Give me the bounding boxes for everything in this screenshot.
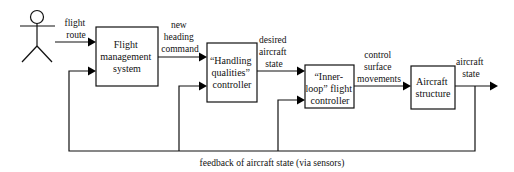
arrowhead-icon	[88, 38, 96, 47]
feedback-line-inner	[278, 100, 299, 151]
aircraft-state-label: aircraft state	[456, 57, 486, 79]
flight-route-label: flight route	[65, 18, 88, 40]
control-surface-label: control surface movements	[357, 50, 401, 84]
feedback-line-hq	[179, 86, 201, 151]
pilot-stick-figure-icon	[20, 11, 55, 63]
control-diagram: Flight management system “Handling quali…	[0, 0, 514, 172]
arrowhead-icon	[490, 82, 498, 91]
arrowhead-icon	[297, 96, 305, 105]
hq-label: “Handling qualities” controller	[210, 55, 254, 90]
desired-state-label: desired aircraft state	[259, 35, 289, 69]
feedback-label: feedback of aircraft state (via sensors)	[200, 158, 345, 169]
new-heading-label: new heading command	[161, 20, 199, 54]
arrowhead-icon	[297, 67, 305, 76]
arrowhead-icon	[199, 53, 207, 62]
arrowhead-icon	[199, 82, 207, 91]
structure-label: Aircraft structure	[416, 76, 452, 99]
arrowhead-icon	[88, 67, 96, 76]
arrowhead-icon	[403, 82, 411, 91]
